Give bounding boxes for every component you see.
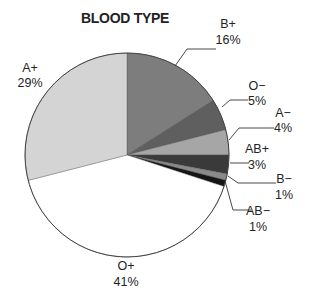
leader-line <box>229 128 274 140</box>
slice-label: AB− <box>246 204 270 218</box>
slice-percent: 5% <box>248 94 266 108</box>
leader-line <box>175 49 216 66</box>
slice-percent: 16% <box>215 33 240 47</box>
slice-label: AB+ <box>245 142 269 156</box>
slice-percent: 4% <box>274 121 292 135</box>
slice-label: O− <box>248 79 265 93</box>
leader-line <box>222 100 248 107</box>
leader-line <box>228 176 276 183</box>
slice-label: B+ <box>220 17 236 31</box>
pie-slices <box>25 53 229 257</box>
slice-percent: 3% <box>248 158 266 172</box>
slice-percent: 29% <box>17 76 42 90</box>
slice-label: A− <box>275 106 291 120</box>
slice-label: A+ <box>22 61 38 75</box>
blood-type-pie-chart: BLOOD TYPE B+16%O−5%A−4%AB+3%B−1%AB−1%O+… <box>0 0 309 308</box>
chart-title: BLOOD TYPE <box>81 10 169 26</box>
slice-percent: 41% <box>113 275 138 289</box>
slice-percent: 1% <box>275 188 293 202</box>
slice-label: O+ <box>117 259 134 273</box>
slice-label: B− <box>276 172 292 186</box>
slice-percent: 1% <box>249 220 267 234</box>
